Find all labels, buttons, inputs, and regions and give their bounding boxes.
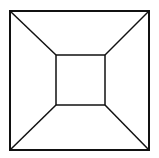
- inner-square: [56, 55, 105, 105]
- connector-line-top-left: [10, 11, 56, 55]
- connector-line-bottom-right: [105, 105, 149, 150]
- connector-line-top-right: [105, 11, 149, 55]
- connector-line-bottom-left: [10, 105, 56, 150]
- corner-connectors: [10, 11, 149, 150]
- nested-squares-diagram: [0, 0, 159, 158]
